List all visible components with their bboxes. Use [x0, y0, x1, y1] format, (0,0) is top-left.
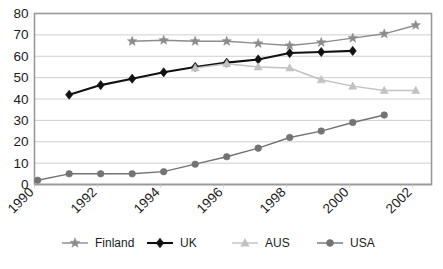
series-group [34, 20, 420, 183]
x-axis-tick-labels: 1990199219941996199820002002 [5, 184, 415, 216]
legend-item-aus[interactable]: AUS [232, 236, 290, 250]
y-tick-label: 80 [13, 6, 28, 21]
legend-label: Finland [95, 236, 134, 250]
data-point-diamond [349, 46, 356, 55]
data-point-star [316, 37, 326, 46]
data-point-circle [349, 119, 356, 126]
data-point-circle [327, 240, 334, 247]
data-point-star [379, 29, 389, 38]
legend-label: UK [180, 236, 197, 250]
line-chart: 01020304050607080 1990199219941996199820… [0, 0, 443, 269]
data-point-star [127, 36, 137, 45]
y-tick-label: 30 [13, 113, 28, 128]
data-point-circle [192, 161, 199, 168]
legend-item-finland[interactable]: Finland [62, 236, 134, 250]
data-point-star [253, 38, 263, 47]
y-axis-tick-labels: 01020304050607080 [13, 6, 28, 192]
data-point-star [190, 36, 200, 45]
data-point-circle [160, 168, 167, 175]
legend-item-usa[interactable]: USA [317, 236, 375, 250]
x-tick-label: 2000 [320, 185, 352, 217]
data-point-star [222, 36, 232, 45]
data-point-diamond [156, 238, 164, 248]
legend-label: AUS [265, 236, 290, 250]
data-point-circle [97, 171, 104, 178]
x-tick-label: 1994 [131, 184, 163, 216]
x-tick-label: 1998 [257, 185, 289, 217]
y-tick-label: 60 [13, 49, 28, 64]
data-point-circle [129, 171, 136, 178]
data-point-diamond [129, 74, 136, 83]
chart-canvas: 01020304050607080 1990199219941996199820… [0, 0, 443, 269]
data-point-circle [318, 128, 325, 135]
data-point-circle [66, 171, 73, 178]
series-usa [34, 112, 387, 184]
series-aus [191, 60, 420, 94]
data-point-star [411, 20, 421, 29]
x-tick-label: 2002 [383, 185, 415, 217]
data-point-star [159, 35, 169, 44]
data-point-diamond [160, 68, 167, 77]
data-point-circle [255, 145, 262, 152]
data-point-circle [223, 153, 230, 160]
legend-item-uk[interactable]: UK [147, 236, 197, 250]
data-point-diamond [66, 90, 73, 99]
y-tick-label: 20 [13, 134, 28, 149]
y-tick-label: 40 [13, 92, 28, 107]
y-tick-label: 50 [13, 70, 28, 85]
data-point-diamond [97, 81, 104, 90]
data-point-circle [381, 112, 388, 119]
x-tick-label: 1990 [5, 185, 37, 217]
gridlines-group [35, 14, 432, 185]
data-point-star [70, 238, 80, 247]
y-tick-label: 70 [13, 27, 28, 42]
x-tick-label: 1996 [194, 185, 226, 217]
series-uk [66, 46, 357, 99]
data-point-circle [34, 177, 41, 184]
data-point-diamond [318, 47, 325, 56]
chart-legend: FinlandUKAUSUSA [62, 236, 375, 250]
x-tick-label: 1992 [68, 185, 100, 217]
data-point-circle [286, 134, 293, 141]
y-tick-label: 10 [13, 156, 28, 171]
legend-label: USA [350, 236, 375, 250]
